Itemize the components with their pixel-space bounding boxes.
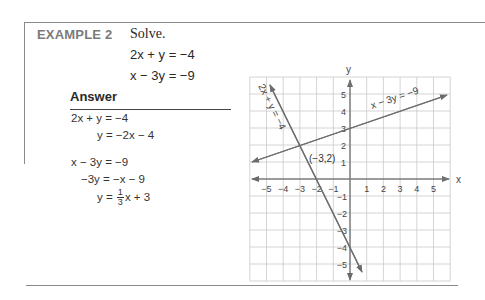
svg-text:4: 4	[414, 184, 419, 194]
svg-text:−2: −2	[337, 209, 347, 219]
intersection-label: (−3,2)	[309, 153, 335, 164]
svg-text:3: 3	[398, 184, 403, 194]
svg-text:−5: −5	[261, 184, 271, 194]
svg-text:1: 1	[364, 184, 369, 194]
svg-text:3: 3	[341, 124, 346, 134]
svg-text:5: 5	[341, 90, 346, 100]
svg-text:−5: −5	[337, 260, 347, 270]
x-tick-labels: −5 −4 −3 −2 −1 1 2 3 4 5	[261, 184, 436, 194]
svg-text:−3: −3	[295, 184, 305, 194]
coordinate-graph: x y −5 −4 −3 −2 −1 1 2 3 4 5 5 4 3 2 1 −…	[0, 0, 485, 300]
x-axis-label: x	[456, 174, 461, 185]
svg-text:2: 2	[341, 141, 346, 151]
svg-text:−2: −2	[311, 184, 321, 194]
svg-text:−4: −4	[278, 184, 288, 194]
svg-text:2: 2	[381, 184, 386, 194]
svg-text:−4: −4	[337, 243, 347, 253]
svg-text:5: 5	[431, 184, 436, 194]
svg-text:1: 1	[341, 158, 346, 168]
y-tick-labels: 5 4 3 2 1 −1 −2 −3 −4 −5	[337, 90, 347, 270]
svg-text:4: 4	[341, 107, 346, 117]
svg-text:−1: −1	[337, 192, 347, 202]
y-axis-label: y	[346, 64, 351, 75]
